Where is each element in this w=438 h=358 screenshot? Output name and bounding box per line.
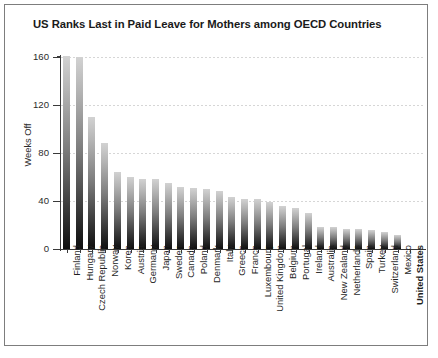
x-axis-tick [385, 249, 386, 253]
x-axis-tick [169, 249, 170, 253]
x-axis-label: Denmark [211, 245, 222, 355]
x-axis-label: Japan [160, 245, 171, 355]
x-axis-tick [156, 249, 157, 253]
x-axis-tick [372, 249, 373, 253]
bar [216, 191, 223, 249]
x-axis-label: Korea [122, 245, 133, 355]
bar [254, 199, 261, 249]
x-axis-tick [309, 249, 310, 253]
x-axis-label: Luxembourg [262, 245, 273, 355]
x-axis-tick [220, 249, 221, 253]
bar [152, 179, 159, 249]
x-axis-label: Switzerland [389, 245, 400, 355]
x-axis-tick [321, 249, 322, 253]
x-axis-tick [207, 249, 208, 253]
x-axis-label: Finland [71, 245, 82, 355]
y-axis-tick [53, 201, 60, 202]
bar [266, 202, 273, 249]
x-axis-tick [258, 249, 259, 253]
x-axis-label: Spain [363, 245, 374, 355]
x-axis-tick [105, 249, 106, 253]
x-axis-label: Poland [198, 245, 209, 355]
y-axis-tick [53, 249, 60, 250]
x-axis-label: Germany [147, 245, 158, 355]
bar [241, 199, 248, 249]
x-axis-label: Ireland [313, 245, 324, 355]
x-axis-tick [80, 249, 81, 253]
x-axis-tick [270, 249, 271, 253]
x-axis-tick [359, 249, 360, 253]
y-axis-tick-label: 40 [9, 195, 49, 206]
x-axis-label: Austria [135, 245, 146, 355]
y-axis-tick-label: 80 [9, 147, 49, 158]
bar [88, 117, 95, 249]
bar [63, 56, 70, 249]
plot-area [61, 57, 425, 249]
x-axis-label: United Kingdom [274, 245, 285, 355]
x-axis-tick [410, 249, 411, 253]
y-axis-label: Weeks Off [23, 110, 33, 180]
gridline [61, 105, 425, 106]
x-axis-label: United States [414, 245, 425, 355]
y-axis-tick-label: 120 [9, 99, 49, 110]
y-axis-tick-label: 160 [9, 51, 49, 62]
bar [305, 213, 312, 249]
x-axis-tick [347, 249, 348, 253]
x-axis-tick [283, 249, 284, 253]
bar [177, 187, 184, 249]
bar [279, 206, 286, 249]
chart-frame: US Ranks Last in Paid Leave for Mothers … [4, 4, 428, 346]
x-axis-tick [245, 249, 246, 253]
x-axis-tick [181, 249, 182, 253]
x-axis-tick [334, 249, 335, 253]
y-axis-tick-label: 0 [9, 243, 49, 254]
bar [114, 172, 121, 249]
chart-title: US Ranks Last in Paid Leave for Mothers … [33, 18, 413, 38]
x-axis-label: Italy [224, 245, 235, 355]
bar [190, 188, 197, 249]
x-axis-label: Belgium [287, 245, 298, 355]
x-axis-label: Portugal [300, 245, 311, 355]
x-axis-tick [92, 249, 93, 253]
y-axis-tick [53, 105, 60, 106]
bar [127, 177, 134, 249]
x-axis-label: Greece [236, 245, 247, 355]
x-axis-label: Netherlands [351, 245, 362, 355]
bar [139, 179, 146, 249]
bar [203, 189, 210, 249]
gridline [61, 57, 425, 58]
x-axis-tick [194, 249, 195, 253]
x-axis-tick [398, 249, 399, 253]
x-axis-tick [118, 249, 119, 253]
x-axis-label: Turkey [376, 245, 387, 355]
y-axis-tick [53, 57, 60, 58]
gridline [61, 153, 425, 154]
x-axis-label: Czech Republic [96, 245, 107, 355]
x-axis-label: Mexico [402, 245, 413, 355]
x-axis-tick [131, 249, 132, 253]
y-axis-tick [53, 153, 60, 154]
bar [165, 183, 172, 249]
bar [292, 208, 299, 249]
x-axis-label: Hungary [84, 245, 95, 355]
x-axis-tick [143, 249, 144, 253]
x-axis-label: Norway [109, 245, 120, 355]
bar [228, 197, 235, 249]
x-axis-label: France [249, 245, 260, 355]
x-axis-tick [232, 249, 233, 253]
bar [101, 143, 108, 249]
bar [76, 57, 83, 249]
x-axis-tick [296, 249, 297, 253]
x-axis-label: Sweden [173, 245, 184, 355]
x-axis-label: Canada [185, 245, 196, 355]
x-axis-tick [67, 249, 68, 253]
x-axis-label: New Zealand [338, 245, 349, 355]
x-axis-label: Australia [325, 245, 336, 355]
